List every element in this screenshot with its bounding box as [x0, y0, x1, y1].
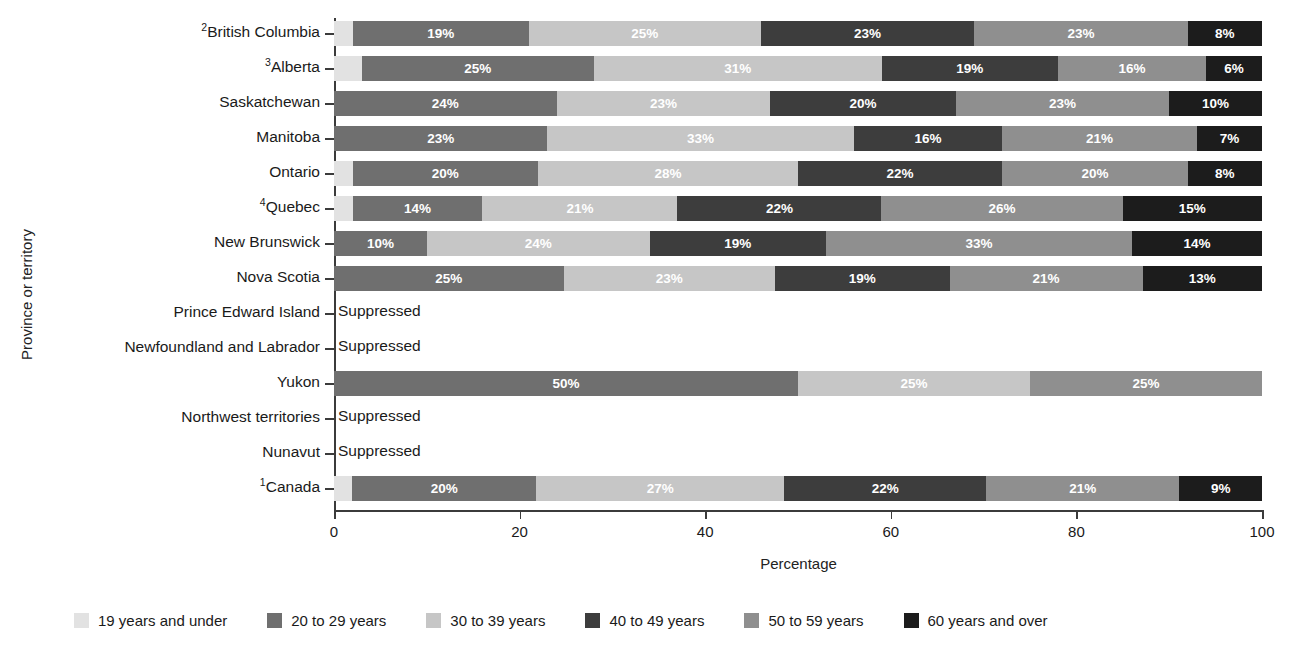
chart-legend: 19 years and under20 to 29 years30 to 39…: [74, 612, 1254, 629]
legend-item[interactable]: 19 years and under: [74, 612, 227, 629]
legend-item[interactable]: 30 to 39 years: [426, 612, 545, 629]
x-axis-tick: [705, 510, 707, 519]
suppressed-label: Suppressed: [338, 442, 421, 460]
bar-segment: 14%: [353, 196, 483, 221]
x-axis-title: Percentage: [334, 555, 1263, 572]
legend-label: 60 years and over: [928, 612, 1048, 629]
bar-segment: 19%: [775, 266, 950, 291]
bar-segment: 27%: [536, 476, 784, 501]
bar-segment: 14%: [1132, 231, 1262, 256]
x-axis-line: [334, 510, 1263, 512]
y-axis-tick-label: Saskatchewan: [219, 93, 320, 111]
bar-segment: 21%: [950, 266, 1143, 291]
bar-segment: 21%: [1002, 126, 1197, 151]
chart-row: Yukon50%25%25%: [334, 368, 1262, 399]
bar-segment: 23%: [974, 21, 1187, 46]
y-axis-tick: [325, 348, 334, 350]
x-axis-tick-label: 80: [1041, 523, 1111, 540]
legend-item[interactable]: 20 to 29 years: [267, 612, 386, 629]
bar-segment: 6%: [1206, 56, 1262, 81]
chart-row: Ontario20%28%22%20%8%: [334, 158, 1262, 189]
bar-segment: 20%: [1002, 161, 1188, 186]
y-axis-tick-label: Nova Scotia: [236, 268, 320, 286]
stacked-bar: 20%28%22%20%8%: [334, 161, 1262, 186]
y-axis-title: Province or territory: [18, 165, 35, 425]
y-axis-tick: [325, 383, 334, 385]
chart-row: Manitoba23%33%16%21%7%: [334, 123, 1262, 154]
y-axis-tick: [325, 313, 334, 315]
legend-swatch-icon: [267, 613, 282, 628]
chart-row: 4Quebec14%21%22%26%15%: [334, 193, 1262, 224]
legend-label: 19 years and under: [98, 612, 227, 629]
y-axis-tick-label: Manitoba: [256, 128, 320, 146]
bar-segment: 22%: [798, 161, 1002, 186]
bar-segment: 13%: [1143, 266, 1262, 291]
footnote-superscript: 4: [260, 196, 266, 208]
chart-row: Northwest territoriesSuppressed: [334, 403, 1262, 434]
x-axis-tick-label: 20: [485, 523, 555, 540]
y-axis-tick: [325, 68, 334, 70]
y-axis-tick: [325, 138, 334, 140]
y-axis-tick: [325, 208, 334, 210]
stacked-bar: 25%23%19%21%13%: [334, 266, 1262, 291]
x-axis-tick: [520, 510, 522, 519]
chart-row: NunavutSuppressed: [334, 438, 1262, 469]
footnote-superscript: 3: [265, 56, 271, 68]
bar-segment: 33%: [826, 231, 1132, 256]
bar-segment: 24%: [334, 91, 557, 116]
stacked-bar: 19%25%23%23%8%: [334, 21, 1262, 46]
stacked-bar: 50%25%25%: [334, 371, 1262, 396]
y-axis-tick-label: Yukon: [277, 373, 320, 391]
chart-row: New Brunswick10%24%19%33%14%: [334, 228, 1262, 259]
bar-segment: 25%: [334, 266, 564, 291]
y-axis-tick: [325, 103, 334, 105]
bar-segment: 22%: [784, 476, 986, 501]
y-axis-tick: [325, 278, 334, 280]
x-axis-tick: [1076, 510, 1078, 519]
legend-swatch-icon: [585, 613, 600, 628]
bar-segment: 50%: [334, 371, 798, 396]
y-axis-tick: [325, 418, 334, 420]
legend-item[interactable]: 50 to 59 years: [744, 612, 863, 629]
y-axis-tick-label: 2British Columbia: [201, 23, 320, 41]
suppressed-label: Suppressed: [338, 407, 421, 425]
stacked-bar: 14%21%22%26%15%: [334, 196, 1262, 221]
bar-segment: 21%: [482, 196, 677, 221]
y-axis-tick: [325, 453, 334, 455]
bar-segment: 22%: [677, 196, 881, 221]
legend-label: 20 to 29 years: [291, 612, 386, 629]
legend-item[interactable]: 40 to 49 years: [585, 612, 704, 629]
y-axis-tick-label: 1Canada: [260, 478, 320, 496]
bar-segment: 25%: [362, 56, 594, 81]
footnote-superscript: 2: [201, 21, 207, 33]
y-axis-tick: [325, 243, 334, 245]
y-axis-tick-label: 4Quebec: [260, 198, 320, 216]
y-axis-tick-label: Nunavut: [262, 443, 320, 461]
bar-segment: 31%: [594, 56, 882, 81]
bar-segment: 23%: [761, 21, 974, 46]
x-axis-tick-label: 60: [856, 523, 926, 540]
bar-segment: 28%: [538, 161, 798, 186]
bar-segment: 21%: [986, 476, 1179, 501]
legend-label: 30 to 39 years: [450, 612, 545, 629]
legend-item[interactable]: 60 years and over: [904, 612, 1048, 629]
chart-row: Saskatchewan24%23%20%23%10%: [334, 88, 1262, 119]
legend-swatch-icon: [74, 613, 89, 628]
y-axis-tick-label: New Brunswick: [214, 233, 320, 251]
chart-row: Nova Scotia25%23%19%21%13%: [334, 263, 1262, 294]
bar-segment: 9%: [1179, 476, 1262, 501]
y-axis-tick-label: Ontario: [269, 163, 320, 181]
bar-segment: 20%: [353, 161, 539, 186]
bar-segment: 23%: [564, 266, 775, 291]
suppressed-label: Suppressed: [338, 337, 421, 355]
chart-row: 2British Columbia19%25%23%23%8%: [334, 18, 1262, 49]
bar-segment: 10%: [334, 231, 427, 256]
bar-segment: 25%: [1030, 371, 1262, 396]
y-axis-tick: [325, 173, 334, 175]
plot-area: 2British Columbia19%25%23%23%8%3Alberta2…: [334, 18, 1262, 510]
y-axis-tick-label: Newfoundland and Labrador: [124, 338, 320, 356]
bar-segment: 26%: [881, 196, 1122, 221]
x-axis-tick: [1262, 510, 1264, 519]
bar-segment: 19%: [650, 231, 826, 256]
x-axis-tick-label: 100: [1227, 523, 1297, 540]
